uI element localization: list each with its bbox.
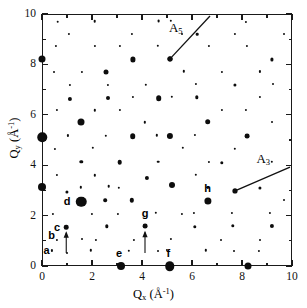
y-tick <box>42 240 46 241</box>
y-tick <box>286 13 292 14</box>
x-tick <box>91 260 92 266</box>
peak-label-e: e <box>116 247 122 259</box>
x-axis-title-base: Q <box>133 287 142 301</box>
peak-label-a: a <box>43 244 49 256</box>
x-tick <box>216 14 217 18</box>
x-tick <box>66 14 67 18</box>
peak-label-h: h <box>204 182 211 194</box>
y-tick-label: 2 <box>16 209 36 221</box>
x-tick <box>66 263 67 267</box>
plot-frame <box>42 14 292 266</box>
x-tick <box>141 260 142 266</box>
y-axis-unit-open: (Å <box>7 129 21 145</box>
y-tick <box>286 215 292 216</box>
x-axis-unit-close: ) <box>170 287 174 301</box>
x-tick <box>91 14 92 20</box>
diffraction-pattern-figure: 02468100246810 abcdefgh A5A3 Qx (Å-1) Qy… <box>0 0 307 308</box>
annotation-base: A <box>169 20 178 35</box>
x-tick-label: 0 <box>31 270 53 282</box>
y-tick <box>286 64 292 65</box>
x-tick-label: 8 <box>231 270 253 282</box>
x-tick-label: 10 <box>281 270 303 282</box>
y-tick <box>42 13 48 14</box>
annotation-subscript: 5 <box>178 26 182 36</box>
axis-annotation-A3: A3 <box>256 151 270 167</box>
y-tick <box>286 165 292 166</box>
x-tick <box>266 14 267 18</box>
y-tick <box>42 64 48 65</box>
y-tick <box>289 139 293 140</box>
y-tick <box>42 265 48 266</box>
peak-label-d: d <box>64 195 71 207</box>
y-axis-unit-close: ) <box>7 118 21 122</box>
axis-annotation-A5: A5 <box>169 20 183 36</box>
y-tick <box>42 114 48 115</box>
annotation-subscript: 3 <box>266 157 270 167</box>
x-axis-title: Qx (Å-1) <box>0 286 307 302</box>
x-tick <box>116 263 117 267</box>
x-tick <box>291 14 292 20</box>
x-tick <box>166 263 167 267</box>
y-axis-title-base: Q <box>7 149 21 158</box>
peak-label-f: f <box>166 247 170 259</box>
x-tick <box>241 260 242 266</box>
y-axis-title: Qy (Å-1) <box>6 68 22 208</box>
x-tick <box>141 14 142 20</box>
y-tick <box>42 215 48 216</box>
x-tick <box>166 14 167 18</box>
y-tick <box>289 240 293 241</box>
y-tick <box>286 114 292 115</box>
y-tick <box>42 190 46 191</box>
x-axis-unit-open: (Å <box>146 287 162 301</box>
peak-label-c: c <box>54 221 60 233</box>
x-tick-label: 6 <box>181 270 203 282</box>
x-tick <box>41 14 42 20</box>
x-tick <box>191 14 192 20</box>
y-tick <box>42 39 46 40</box>
peak-label-g: g <box>142 207 149 219</box>
y-tick-label: 10 <box>16 7 36 19</box>
y-axis-title-subscript: y <box>12 145 22 149</box>
annotation-base: A <box>256 151 265 166</box>
y-tick <box>286 265 292 266</box>
x-tick <box>216 263 217 267</box>
y-axis-unit-exponent: -1 <box>6 122 16 129</box>
y-tick <box>289 39 293 40</box>
y-tick <box>42 89 46 90</box>
x-tick-label: 2 <box>81 270 103 282</box>
x-tick <box>116 14 117 18</box>
x-tick-label: 4 <box>131 270 153 282</box>
x-tick <box>266 263 267 267</box>
y-tick <box>42 139 46 140</box>
y-tick <box>289 190 293 191</box>
y-tick <box>289 89 293 90</box>
y-tick <box>42 165 48 166</box>
x-tick <box>191 260 192 266</box>
y-tick-label: 0 <box>16 259 36 271</box>
x-axis-unit-exponent: -1 <box>163 286 170 296</box>
x-tick <box>241 14 242 20</box>
